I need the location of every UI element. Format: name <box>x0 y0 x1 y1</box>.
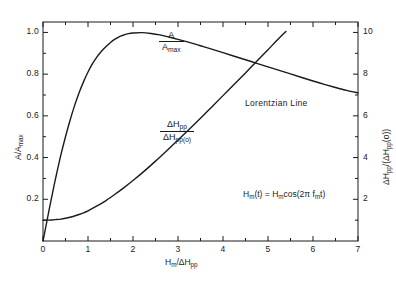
curve-label-amplitude-denominator: Amax <box>159 42 184 53</box>
chart-plot-area <box>0 0 396 286</box>
annotation-lorentzian-line-text: Lorentzian Line <box>245 98 308 108</box>
figure-container: 01234567 0.20.40.60.81.0 246810 Hm/ΔHpp … <box>0 0 396 286</box>
curve-label-linewidth-denominator-symbol: ΔH <box>163 132 176 142</box>
y-axis-left-title: A/Amax <box>14 134 25 160</box>
y-left-tick-label-2: 0.6 <box>9 111 39 120</box>
y-axis-right-title-numerator: ΔH <box>381 173 391 185</box>
curve-label-amplitude-denominator-subscript: max <box>168 47 181 54</box>
y-axis-right-title-denominator: /(ΔH <box>381 149 391 166</box>
x-tick-label-1: 1 <box>73 245 103 254</box>
x-tick-label-4: 4 <box>208 245 238 254</box>
y-right-tick-label-3: 8 <box>363 69 387 78</box>
curve-label-linewidth-fraction: ΔHpp ΔHpp(o) <box>160 120 194 143</box>
curve-label-amplitude-fraction: A Amax <box>159 31 184 54</box>
y-axis-right-title-denominator-subscript: pp <box>385 142 392 149</box>
curve-label-linewidth-denominator: ΔHpp(o) <box>160 132 194 143</box>
annotation-equation: Hm(t) = Hmcos(2π fmt) <box>243 190 325 201</box>
curve-label-linewidth-denominator-subscript: pp <box>176 136 183 143</box>
curve-label-amplitude: A Amax <box>159 31 184 54</box>
x-tick-label-3: 3 <box>163 245 193 254</box>
x-tick-label-6: 6 <box>298 245 328 254</box>
curve-label-linewidth-numerator-subscript: pp <box>180 123 187 130</box>
y-axis-left-title-subscript: max <box>17 134 24 146</box>
annotation-lorentzian-line: Lorentzian Line <box>245 99 308 108</box>
x-axis-title-separator-subscript: pp <box>191 261 198 268</box>
curve-label-linewidth-numerator-symbol: ΔH <box>167 119 180 129</box>
y-left-tick-label-0: 0.2 <box>9 194 39 203</box>
equation-rhs-tail: t) <box>320 189 325 199</box>
curve-label-linewidth-numerator: ΔHpp <box>160 120 194 132</box>
curve-label-linewidth: ΔHpp ΔHpp(o) <box>160 120 194 143</box>
y-right-tick-label-4: 10 <box>363 27 387 36</box>
y-axis-right-title-numerator-subscript: pp <box>385 166 392 173</box>
x-axis-title: Hm/ΔHpp <box>165 258 198 269</box>
axes-frame <box>43 22 358 241</box>
x-axis-title-separator: /ΔH <box>176 257 190 267</box>
equation-lhs-argument: (t) <box>254 189 262 199</box>
y-axis-right-title-tail: (o)) <box>381 129 391 142</box>
x-tick-label-0: 0 <box>28 245 58 254</box>
y-right-tick-label-2: 6 <box>363 111 387 120</box>
equation-rhs-function: cos(2π f <box>284 189 315 199</box>
data-curves <box>43 31 358 241</box>
curve-label-amplitude-numerator: A <box>159 31 184 42</box>
equation-equals-sign: = <box>265 189 270 199</box>
x-tick-label-7: 7 <box>343 245 373 254</box>
y-axis-left-title-symbol: A/A <box>13 146 23 160</box>
axis-ticks <box>43 22 358 241</box>
x-tick-label-2: 2 <box>118 245 148 254</box>
y-left-tick-label-4: 1.0 <box>9 27 39 36</box>
y-axis-right-title: ΔHpp/(ΔHpp(o)) <box>382 129 393 185</box>
y-right-tick-label-0: 2 <box>363 194 387 203</box>
curve-label-linewidth-denominator-tail: (o) <box>183 136 191 143</box>
x-tick-label-5: 5 <box>253 245 283 254</box>
plot-frame <box>43 22 358 241</box>
y-left-tick-label-3: 0.8 <box>9 69 39 78</box>
